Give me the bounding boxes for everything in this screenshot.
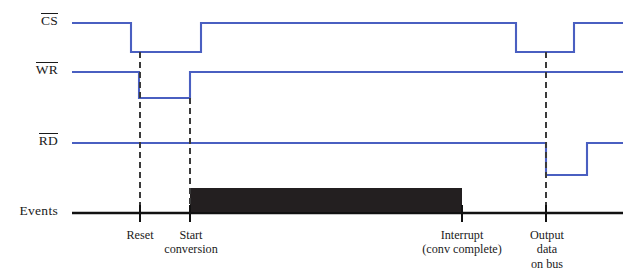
event-label-line: Output <box>530 228 564 242</box>
event-label-0: Reset <box>126 228 153 242</box>
conversion-busy-bar <box>190 188 462 212</box>
signal-label-text: WR <box>36 62 58 77</box>
signal-label-text: CS <box>41 13 58 28</box>
event-label-3: Outputdataon bus <box>530 228 564 271</box>
event-label-2: Interrupt(conv complete) <box>422 228 502 257</box>
event-label-line: conversion <box>164 242 217 256</box>
event-label-1: Startconversion <box>164 228 217 257</box>
event-label-line: Reset <box>126 228 153 242</box>
event-label-line: (conv complete) <box>422 242 502 256</box>
signal-label-events: Events <box>0 203 58 219</box>
signal-label-text: RD <box>39 133 58 148</box>
signal-label-rd: RD <box>0 133 58 149</box>
signal-trace-rd <box>72 143 623 175</box>
signal-trace-wr <box>72 72 623 98</box>
signal-label-wr: WR <box>0 62 58 78</box>
event-label-line: Interrupt <box>422 228 502 242</box>
signal-trace-cs <box>72 23 623 52</box>
event-label-line: on bus <box>530 257 564 271</box>
event-label-line: Start <box>164 228 217 242</box>
signal-label-cs: CS <box>0 13 58 29</box>
signal-label-text: Events <box>19 203 58 218</box>
timing-diagram: CSWRRDEventsResetStartconversionInterrup… <box>0 0 635 274</box>
event-label-line: data <box>530 242 564 256</box>
